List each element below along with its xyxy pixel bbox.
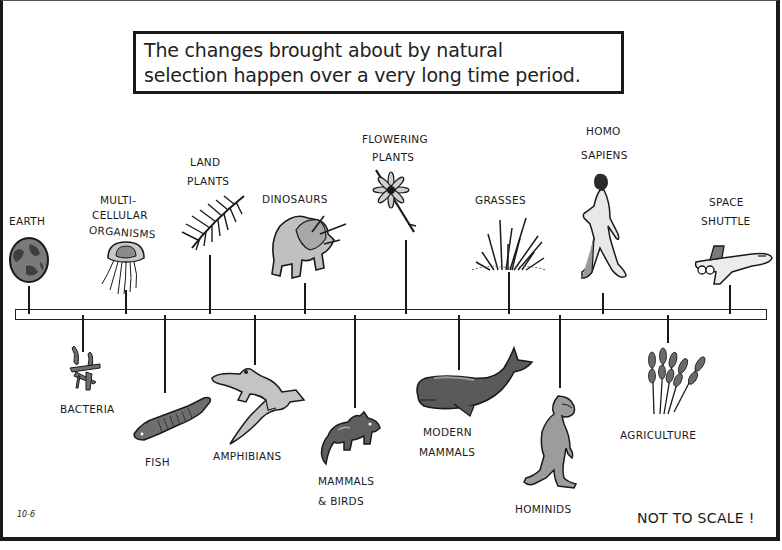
- label-modern-1: MODERN: [423, 425, 472, 439]
- ape-icon: [520, 394, 582, 490]
- not-to-scale-note: NOT TO SCALE !: [637, 510, 755, 526]
- label-land-plants-1: LAND: [190, 155, 220, 169]
- tick-land-plants: [209, 255, 211, 314]
- label-homo-1: HOMO: [586, 124, 621, 138]
- tick-dinosaurs: [304, 283, 306, 314]
- figure-code: 10-6: [17, 510, 35, 519]
- label-homo-2: SAPIENS: [581, 148, 628, 162]
- wheat-stalks-icon: [646, 346, 710, 416]
- label-grasses: GRASSES: [475, 193, 526, 207]
- title-box: The changes brought about by natural sel…: [133, 31, 624, 94]
- label-land-plants-2: PLANTS: [187, 174, 229, 188]
- title-line-1: The changes brought about by natural: [144, 38, 621, 63]
- tick-homo-sapiens: [602, 293, 604, 314]
- salamander-icon: [210, 364, 306, 446]
- earth-globe-icon: [8, 236, 50, 286]
- whale-icon: [414, 346, 534, 418]
- label-shuttle-1: SPACE: [709, 195, 744, 209]
- label-amphibians: AMPHIBIANS: [213, 449, 282, 463]
- label-flowering-1: FLOWERING: [362, 132, 428, 146]
- tick-hominids: [559, 315, 561, 388]
- label-fish: FISH: [145, 455, 170, 469]
- tick-earth: [28, 286, 30, 314]
- grass-tuft-icon: [468, 218, 548, 272]
- label-flowering-2: PLANTS: [372, 150, 414, 164]
- label-hominids: HOMINIDS: [515, 502, 571, 516]
- small-mammal-icon: [318, 410, 384, 468]
- fern-frond-icon: [178, 192, 248, 252]
- tick-grasses: [508, 272, 510, 314]
- flower-icon: [370, 168, 420, 236]
- triceratops-icon: [268, 210, 350, 286]
- title-line-2: selection happen over a very long time p…: [144, 63, 621, 88]
- walking-human-icon: [580, 172, 630, 290]
- label-multicellular-2: CELLULAR: [92, 208, 148, 222]
- label-agriculture: AGRICULTURE: [620, 428, 696, 442]
- bacteria-cluster-icon: [66, 344, 104, 392]
- tick-agriculture: [667, 315, 669, 343]
- tick-fish: [164, 315, 166, 393]
- label-mammals-2: & BIRDS: [318, 494, 364, 508]
- fish-icon: [132, 394, 214, 444]
- label-modern-2: MAMMALS: [419, 445, 475, 459]
- label-dinosaurs: DINOSAURS: [262, 192, 328, 206]
- tick-flowering-plants: [405, 240, 407, 314]
- label-multicellular-1: MULTI-: [100, 193, 136, 207]
- tick-amphibians: [254, 315, 256, 365]
- space-shuttle-icon: [692, 240, 774, 286]
- label-mammals-1: MAMMALS: [318, 474, 374, 488]
- label-shuttle-2: SHUTTLE: [701, 214, 750, 228]
- tick-mammals-birds: [354, 315, 356, 408]
- tick-space-shuttle: [729, 285, 731, 314]
- label-earth: EARTH: [9, 214, 45, 228]
- label-bacteria: BACTERIA: [60, 402, 115, 416]
- timeline-bar: [15, 309, 767, 320]
- jellyfish-icon: [98, 240, 150, 296]
